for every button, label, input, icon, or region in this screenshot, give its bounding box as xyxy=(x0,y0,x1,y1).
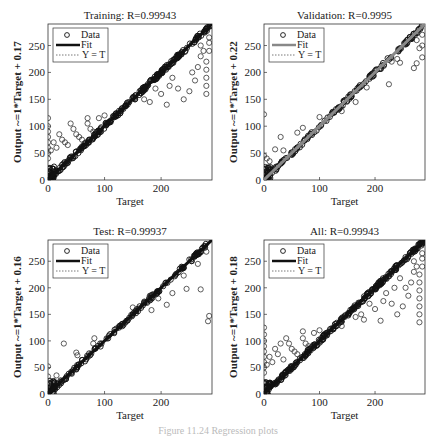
x-tick-label: 100 xyxy=(96,396,113,408)
x-tick-label: 0 xyxy=(45,182,51,194)
panel-title: All: R=0.99943 xyxy=(310,225,380,237)
y-tick-label: 250 xyxy=(245,255,262,267)
y-tick-label: 200 xyxy=(245,66,262,78)
y-axis-label: Output ~=1*Target + 0.16 xyxy=(11,256,23,378)
y-tick-label: 50 xyxy=(250,361,262,373)
y-tick-label: 200 xyxy=(29,282,46,294)
y-tick-label: 100 xyxy=(29,120,46,132)
y-axis-label: Output ~=1*Target + 0.18 xyxy=(227,256,239,378)
x-tick-label: 0 xyxy=(261,396,267,408)
legend-label-yt: Y = T xyxy=(82,49,105,60)
legend: DataFitY = T xyxy=(269,244,324,278)
y-tick-label: 0 xyxy=(256,174,262,186)
legend-label-yt: Y = T xyxy=(82,265,105,276)
y-tick-label: 150 xyxy=(245,308,262,320)
y-tick-label: 150 xyxy=(245,93,262,105)
panel-all: 0100200050100150200250All: R=0.99943Targ… xyxy=(227,225,426,421)
y-axis-label: Output ~=1*Target + 0.22 xyxy=(227,41,239,163)
panel-title: Test: R=0.99937 xyxy=(93,225,167,237)
panel-test: 0100200050100150200250Test: R=0.99937Tar… xyxy=(11,225,212,421)
y-tick-label: 250 xyxy=(29,255,46,267)
y-tick-label: 150 xyxy=(29,308,46,320)
legend-label-yt: Y = T xyxy=(298,49,321,60)
panel-validation: 0100200050100150200250Validation: R=0.99… xyxy=(227,9,425,207)
y-tick-label: 200 xyxy=(29,66,46,78)
x-tick-label: 200 xyxy=(153,182,170,194)
x-tick-label: 100 xyxy=(311,182,328,194)
y-axis-label: Output ~=1*Target + 0.17 xyxy=(11,41,23,163)
y-tick-label: 100 xyxy=(245,120,262,132)
y-tick-label: 0 xyxy=(40,388,46,400)
figure-caption: Figure 11.24 Regression plots xyxy=(158,425,278,436)
legend: DataFitY = T xyxy=(269,28,324,62)
x-tick-label: 0 xyxy=(45,396,51,408)
x-tick-label: 200 xyxy=(153,396,170,408)
legend: DataFitY = T xyxy=(53,28,108,62)
legend: DataFitY = T xyxy=(53,244,108,278)
regression-figure: 0100200050100150200250Training: R=0.9994… xyxy=(0,0,436,439)
y-tick-label: 250 xyxy=(245,40,262,52)
y-tick-label: 250 xyxy=(29,40,46,52)
y-tick-label: 200 xyxy=(245,282,262,294)
y-tick-label: 50 xyxy=(250,147,262,159)
legend-label-yt: Y = T xyxy=(298,265,321,276)
x-tick-label: 100 xyxy=(311,396,328,408)
panel-title: Training: R=0.99943 xyxy=(84,9,177,21)
y-tick-label: 0 xyxy=(256,388,262,400)
x-tick-label: 200 xyxy=(367,182,384,194)
x-axis-label: Target xyxy=(331,409,359,421)
x-axis-label: Target xyxy=(116,195,144,207)
x-axis-label: Target xyxy=(331,195,359,207)
x-tick-label: 100 xyxy=(96,182,113,194)
panel-title: Validation: R=0.9995 xyxy=(297,9,392,21)
y-tick-label: 0 xyxy=(40,174,46,186)
y-tick-label: 100 xyxy=(245,335,262,347)
x-axis-label: Target xyxy=(116,409,144,421)
y-tick-label: 100 xyxy=(29,335,46,347)
x-tick-label: 200 xyxy=(367,396,384,408)
y-tick-label: 50 xyxy=(34,147,46,159)
x-tick-label: 0 xyxy=(261,182,267,194)
panel-training: 0100200050100150200250Training: R=0.9994… xyxy=(11,9,213,207)
y-tick-label: 50 xyxy=(34,361,46,373)
y-tick-label: 150 xyxy=(29,93,46,105)
